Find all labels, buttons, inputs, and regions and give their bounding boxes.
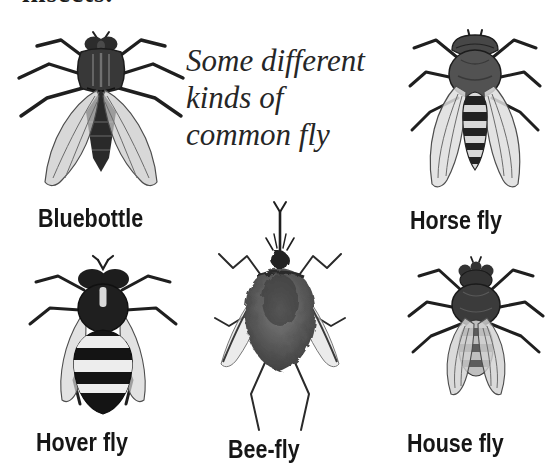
bluebottle-illustration [15,30,187,200]
bee-fly-proboscis [266,202,294,258]
house-fly-label: House fly [407,429,504,458]
caption-line-2: kinds of [186,79,365,116]
caption-line-3: common fly [186,116,365,153]
horse-fly-illustration [406,28,544,206]
horse-fly-label: Horse fly [410,206,502,235]
house-fly-illustration [405,256,547,404]
bee-fly-label: Bee-fly [228,435,300,464]
figure-caption: Some different kinds of common fly [186,42,365,153]
book-page: insects. Some different kinds of common … [0,0,550,467]
bee-fly-illustration [195,198,365,438]
bluebottle-thorax [78,49,125,93]
hover-fly-thorax [78,284,128,332]
caption-line-1: Some different [186,42,365,79]
partial-top-text-word: insects. [22,0,162,6]
hover-fly-label: Hover fly [36,428,128,457]
partial-top-text: insects. [22,0,162,6]
hover-fly-illustration [22,252,184,424]
bluebottle-label: Bluebottle [38,204,143,233]
hover-fly-antennae [93,256,113,269]
